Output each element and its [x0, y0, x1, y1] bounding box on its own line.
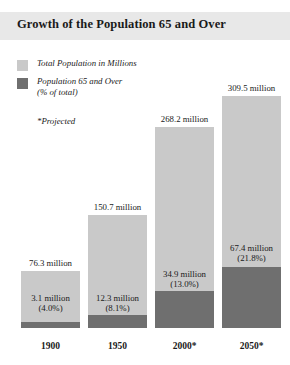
bar-over65-1900 [21, 322, 80, 328]
axis-label-1950: 1950 [88, 341, 147, 351]
bar-over65-label-1950: 12.3 million (8.1%) [79, 293, 156, 313]
bar-total-2000 [155, 127, 214, 328]
bar-over65-label-1900: 3.1 million (4.0%) [12, 293, 89, 313]
bar-total-label-2000: 268.2 million [141, 114, 228, 124]
chart-figure: Growth of the Population 65 and Over Tot… [0, 0, 290, 365]
bar-total-label-1950: 150.7 million [74, 202, 161, 212]
bar-total-label-1900: 76.3 million [7, 258, 94, 268]
bar-over65-value-2000: 34.9 million [163, 269, 206, 279]
bar-over65-value-2050: 67.4 million [230, 243, 273, 253]
bar-over65-pct-1900: (4.0%) [38, 303, 62, 313]
axis-label-2050: 2050* [222, 341, 281, 351]
bar-group-2050: 309.5 million 67.4 million (21.8%) 2050* [222, 96, 281, 328]
bar-over65-value-1900: 3.1 million [31, 293, 70, 303]
bar-over65-pct-2000: (13.0%) [170, 279, 199, 289]
bar-total-2050 [222, 96, 281, 328]
axis-label-1900: 1900 [21, 341, 80, 351]
bar-over65-value-1950: 12.3 million [96, 293, 139, 303]
bar-over65-2000 [155, 291, 214, 328]
bar-total-label-2050: 309.5 million [208, 83, 290, 93]
bar-over65-label-2050: 67.4 million (21.8%) [213, 243, 290, 263]
bar-over65-pct-1950: (8.1%) [105, 303, 129, 313]
axis-label-2000: 2000* [155, 341, 214, 351]
bar-over65-1950 [88, 315, 147, 328]
plot-area: 76.3 million 3.1 million (4.0%) 1900 150… [0, 0, 290, 365]
bar-over65-label-2000: 34.9 million (13.0%) [146, 269, 223, 289]
bar-over65-2050 [222, 267, 281, 328]
bar-group-2000: 268.2 million 34.9 million (13.0%) 2000* [155, 127, 214, 328]
bar-over65-pct-2050: (21.8%) [237, 253, 266, 263]
bar-group-1900: 76.3 million 3.1 million (4.0%) 1900 [21, 271, 80, 328]
bar-group-1950: 150.7 million 12.3 million (8.1%) 1950 [88, 215, 147, 328]
